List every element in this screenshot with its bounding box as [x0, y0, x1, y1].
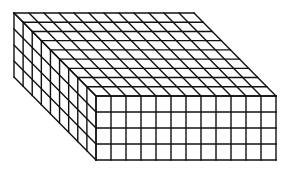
top-face-depth-line	[179, 13, 261, 96]
top-face-depth-line	[59, 13, 141, 96]
left-face-depth-line	[14, 29, 96, 112]
top-face-depth-line	[134, 13, 216, 96]
left-face-depth-line	[14, 61, 96, 144]
unit-cube-prism-drawing	[0, 0, 292, 171]
top-face-depth-line	[44, 13, 126, 96]
top-face-depth-line	[104, 13, 186, 96]
top-face-depth-line	[119, 13, 201, 96]
cube-prism-figure	[0, 0, 292, 171]
top-face-depth-line	[194, 13, 276, 96]
top-face-depth-line	[89, 13, 171, 96]
left-face-depth-line	[14, 45, 96, 128]
top-face-depth-line	[149, 13, 231, 96]
left-face-depth-line	[14, 77, 96, 160]
left-face-depth-line	[14, 13, 96, 96]
top-face-depth-line	[164, 13, 246, 96]
top-face-depth-line	[74, 13, 156, 96]
